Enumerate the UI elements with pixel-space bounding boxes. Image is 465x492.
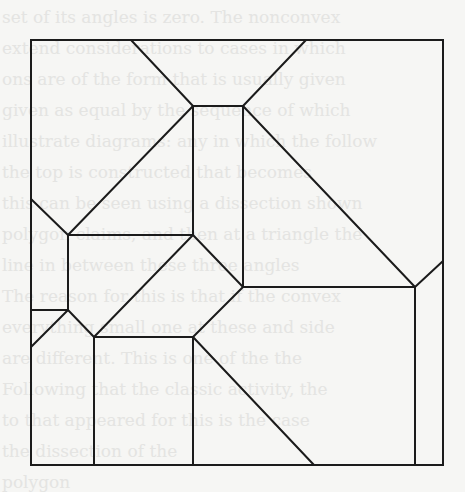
- dissection-edge: [243, 40, 306, 106]
- dissection-edge: [131, 40, 193, 106]
- dissection-edge: [193, 235, 243, 287]
- dissection-edge: [68, 106, 193, 235]
- dissection-edge: [415, 261, 443, 287]
- dissection-edge: [68, 310, 94, 337]
- dissection-edge: [31, 310, 68, 347]
- dissection-diagram: [0, 0, 465, 492]
- dissection-edge: [31, 199, 68, 235]
- dissection-edge: [243, 106, 415, 287]
- dissection-edge: [94, 235, 193, 337]
- dissection-edge: [193, 337, 314, 465]
- dissection-edge: [193, 287, 243, 337]
- dissection-lines: [31, 40, 443, 465]
